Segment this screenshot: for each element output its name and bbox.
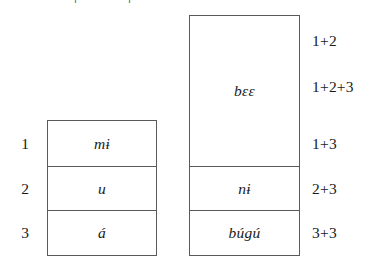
combo-label-5: 3+3 [312,225,378,241]
cell-singular-3: á [98,225,106,241]
cell-singular-2: u [98,181,106,197]
table-row: u [48,167,156,211]
combo-label-2: 1+2+3 [312,79,378,95]
clipped-fragment-left: | [74,0,78,3]
cell-plural-1: bɛɛ [234,83,255,99]
cell-plural-2: nɨ [238,181,251,197]
table-row: nɨ [190,167,299,211]
singular-paradigm-box: mɨ u á [47,120,157,256]
combo-label-4: 2+3 [312,181,378,197]
row-label-1: 1 [10,136,40,152]
table-row: á [48,211,156,255]
row-label-2: 2 [10,181,40,197]
cell-singular-1: mɨ [94,136,110,152]
plural-paradigm-box: bɛɛ nɨ búgú [189,15,300,256]
combination-labels: 1+2 1+2+3 1+3 2+3 3+3 [312,0,386,268]
table-row: bɛɛ [190,16,299,167]
table-row: búgú [190,211,299,255]
clipped-fragment-right: | [128,0,132,3]
pronoun-paradigm-figure: | | 1 2 3 mɨ u á bɛɛ nɨ búgú 1+2 1+2+3 [0,0,386,268]
table-row: mɨ [48,121,156,167]
combo-label-1: 1+2 [312,33,378,49]
cell-plural-3: búgú [228,225,260,241]
combo-label-3: 1+3 [312,136,378,152]
row-number-labels: 1 2 3 [10,120,40,256]
row-label-3: 3 [10,225,40,241]
